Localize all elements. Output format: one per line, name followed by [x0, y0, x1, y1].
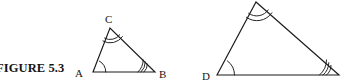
vertex-label-c: C	[105, 13, 112, 25]
angle-mark-a-single-arc	[99, 61, 106, 72]
vertex-label-d: D	[202, 70, 210, 82]
angle-mark-c-double-arc	[103, 35, 123, 43]
vertex-label-a: A	[75, 67, 83, 79]
figure-page: FIGURE 5.3 A B C	[0, 0, 349, 84]
angle-mark-d-single-arc	[227, 61, 234, 75]
triangle-def-outline	[217, 2, 339, 75]
angle-mark-b-triple-arc	[138, 60, 147, 72]
angle-mark-apex-double-arc	[246, 10, 272, 21]
triangle-abc-outline	[93, 28, 155, 72]
triangle-abc: A B C	[75, 13, 166, 80]
triangle-def: D	[202, 2, 339, 82]
vertex-label-b: B	[159, 68, 166, 80]
two-similar-triangles-diagram: A B C D	[0, 0, 349, 84]
